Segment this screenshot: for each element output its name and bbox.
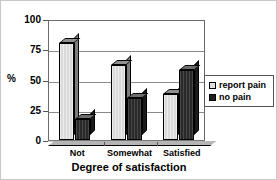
- x-tick-label: Not: [70, 148, 85, 158]
- bar-front-face: [163, 94, 178, 140]
- legend-swatch-icon: [209, 82, 216, 89]
- legend-item-report-pain: report pain: [209, 79, 270, 91]
- bar-front-face: [127, 98, 142, 140]
- bar-front-face: [75, 119, 90, 140]
- bar-front-face: [179, 70, 194, 140]
- x-tick-mark: [104, 142, 105, 146]
- plot-area: [48, 20, 205, 141]
- bar-satisfied-no-pain: [179, 70, 194, 140]
- bar-satisfied-report-pain: [163, 94, 178, 140]
- bar-not-report-pain: [59, 43, 74, 140]
- y-tick-label: 75: [30, 45, 41, 55]
- axis-floor-3d: [48, 141, 216, 146]
- y-tick-label: 0: [35, 136, 41, 146]
- bar-not-no-pain: [75, 119, 90, 140]
- legend-swatch-icon: [209, 94, 216, 101]
- y-axis-ticklabels: 0255075100: [15, 1, 41, 180]
- y-tick-label: 50: [30, 76, 41, 86]
- bar-somewhat-no-pain: [127, 98, 142, 140]
- legend-label: no pain: [219, 92, 251, 102]
- legend-item-no-pain: no pain: [209, 91, 270, 103]
- x-tick-label: Somewhat: [107, 148, 152, 158]
- x-tick-label: Satisfied: [163, 148, 201, 158]
- x-tick-mark: [157, 142, 158, 146]
- legend-label: report pain: [219, 80, 266, 90]
- chart-legend: report painno pain: [204, 75, 274, 107]
- y-tick-label: 25: [30, 106, 41, 116]
- bar-front-face: [59, 43, 74, 140]
- bar-front-face: [111, 65, 126, 140]
- x-axis-title: Degree of satisfaction: [48, 161, 210, 173]
- y-tick-label: 100: [24, 15, 41, 25]
- bar-side-face: [194, 60, 199, 135]
- bar-chart-figure: % 0255075100 NotSomewhatSatisfied Degree…: [0, 0, 277, 180]
- bar-somewhat-report-pain: [111, 65, 126, 140]
